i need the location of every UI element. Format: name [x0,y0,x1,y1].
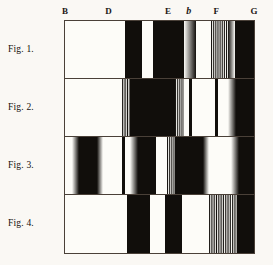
spectrum-band-light [182,195,208,253]
spectrum-band-light [192,79,216,136]
spectrum-band-dark [237,195,254,253]
spectrum-band-light [65,195,124,253]
spectrum-frame [64,20,255,254]
spectrum-band-dark [79,137,97,194]
figure-1 [65,21,254,79]
spectrum-band-stripe [175,79,184,136]
spectrum-band-dark [235,21,254,78]
spectrum-band-dark [130,79,174,136]
spectrum-band-grad-r [130,137,138,194]
figure-2 [65,79,254,137]
spectrum-band-grad-r [228,79,236,136]
spectrum-band-light [65,21,125,78]
spectrum-band-dark [127,195,150,253]
spectrum-band-grad-r [231,137,239,194]
scale-label-g-5: G [250,7,257,16]
figure-label-2: Fig. 2. [8,102,34,112]
figure-3 [65,137,254,195]
spectrum-band-light [65,137,72,194]
scale-label-b-0: B [62,7,68,16]
spectrum-band-dark [239,137,254,194]
spectrum-band-dark [175,137,203,194]
spectrum-band-dark [236,79,254,136]
spectrum-band-stripe [167,137,175,194]
scale-label-f-4: F [213,7,219,16]
spectrum-band-light [156,137,167,194]
spectrum-band-light [218,79,229,136]
spectrum-band-stripe [122,79,131,136]
spectrum-band-grad-r [184,21,196,78]
fraunhofer-line-scale: BDEbFG [0,0,273,20]
spectrum-band-dark [153,21,184,78]
spectrum-band-dark [125,21,142,78]
figure-label-1: Fig. 1. [8,44,34,54]
spectrum-band-light [150,195,165,253]
spectrum-band-grad-l [228,21,236,78]
spectrum-band-light [65,79,122,136]
spectrum-band-dark [138,137,156,194]
spectrum-band-light [142,21,152,78]
figure-4 [65,195,254,253]
spectrum-band-stripe [211,21,228,78]
spectrum-band-dark [165,195,182,253]
scale-label-b-3: b [186,6,191,15]
figure-label-4: Fig. 4. [8,218,34,228]
spectrum-band-stripe [209,195,237,253]
spectrum-band-grad-r [72,137,80,194]
spectra-plate: BDEbFG Fig. 1.Fig. 2.Fig. 3.Fig. 4. [0,0,273,265]
spectrum-band-light [103,137,122,194]
spectrum-band-light [209,137,232,194]
figure-label-3: Fig. 3. [8,160,34,170]
scale-label-d-1: D [105,7,112,16]
scale-label-e-2: E [165,7,171,16]
spectrum-band-light [196,21,210,78]
